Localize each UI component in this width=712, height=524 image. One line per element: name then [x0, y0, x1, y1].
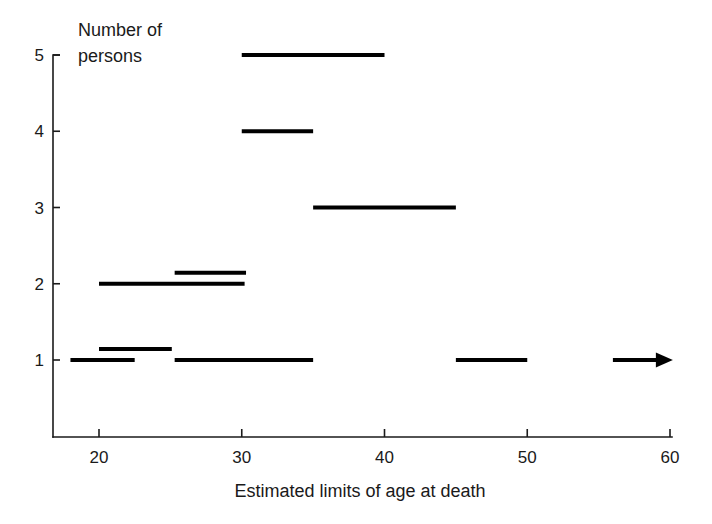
- tick-labels-group: 123452030405060: [35, 46, 680, 467]
- tick-marks-group: [53, 55, 670, 437]
- y-tick-label-5: 5: [35, 46, 44, 65]
- axes-group: [53, 55, 672, 437]
- x-axis-caption: Estimated limits of age at death: [234, 481, 485, 501]
- axis-captions-group: Number ofpersonsEstimated limits of age …: [78, 20, 486, 501]
- x-tick-label-50: 50: [518, 448, 537, 467]
- x-tick-label-20: 20: [90, 448, 109, 467]
- data-segments-group: [70, 55, 672, 368]
- y-tick-label-1: 1: [35, 351, 44, 370]
- arrow-head-icon-person-1e: [656, 353, 673, 368]
- x-tick-label-60: 60: [661, 448, 680, 467]
- y-tick-label-2: 2: [35, 275, 44, 294]
- y-axis-caption-line1: Number of: [78, 20, 163, 40]
- y-tick-label-3: 3: [35, 199, 44, 218]
- x-tick-label-40: 40: [375, 448, 394, 467]
- x-tick-label-30: 30: [232, 448, 251, 467]
- chart-figure: 123452030405060 Number ofpersonsEstimate…: [0, 0, 712, 524]
- chart-canvas: 123452030405060 Number ofpersonsEstimate…: [0, 0, 712, 524]
- y-axis-caption-line2: persons: [78, 46, 142, 66]
- y-tick-label-4: 4: [35, 122, 44, 141]
